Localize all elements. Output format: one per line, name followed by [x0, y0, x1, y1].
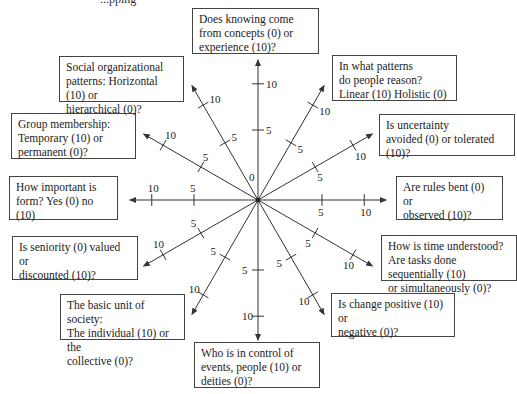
tick-10-label: 10: [242, 310, 254, 322]
tick-5-mark: [198, 228, 204, 238]
tick-5-label: 5: [266, 124, 272, 136]
question-box-reasoning: In what patternsdo people reason?Linear …: [332, 55, 457, 101]
tick-10-label: 10: [343, 259, 355, 271]
question-line: Social organizational: [66, 60, 177, 74]
tick-10-mark: [198, 102, 208, 108]
tick-5-label: 5: [203, 151, 209, 163]
tick-10-mark: [160, 140, 166, 150]
axis-unit: 510: [189, 200, 258, 314]
question-box-group: Group membership:Temporary (10) orperman…: [11, 113, 136, 159]
tick-10-label: 10: [148, 182, 160, 194]
tick-10-label: 10: [355, 150, 367, 162]
tick-5-mark: [286, 140, 296, 146]
question-line: In what patterns: [339, 59, 450, 73]
question-line: patterns: Horizontal (10) or: [66, 74, 177, 102]
question-line: observed (10)?: [403, 208, 496, 222]
tick-5-mark: [198, 162, 204, 172]
center-point: [256, 198, 260, 202]
tick-5-mark: [312, 228, 318, 238]
tick-5-label: 5: [211, 245, 217, 257]
question-line: experience (10)?: [199, 40, 312, 54]
question-box-uncertainty: Is uncertaintyavoided (0) or tolerated (…: [379, 114, 515, 156]
question-box-unit: The basic unit of society:The individual…: [60, 294, 185, 340]
tick-5-label: 5: [305, 237, 311, 249]
tick-10-label: 10: [165, 129, 177, 141]
question-line: Does knowing come: [199, 12, 312, 26]
axis-seniority: 510: [144, 200, 258, 266]
question-line: events, people (10) or: [201, 360, 313, 374]
question-line: avoided (0) or tolerated (10)?: [386, 132, 508, 160]
tick-5-label: 5: [190, 182, 196, 194]
tick-10-label: 10: [298, 295, 310, 307]
center-zero-label: 0: [249, 171, 255, 183]
question-line: deities (0)?: [201, 374, 313, 388]
tick-5-label: 5: [277, 257, 283, 269]
tick-10-label: 10: [266, 78, 278, 90]
question-box-social: Social organizationalpatterns: Horizonta…: [59, 56, 184, 102]
question-box-knowing: Does knowing comefrom concepts (0) orexp…: [192, 8, 319, 54]
question-line: Is change positive (10) or: [338, 297, 448, 325]
question-line: Are tasks done sequentially (10): [388, 253, 510, 281]
question-line: negative (0)?: [338, 325, 448, 339]
question-box-rules: Are rules bent (0) orobserved (10)?: [396, 176, 503, 220]
question-box-control: Who is in control ofevents, people (10) …: [194, 342, 320, 388]
question-line: How important is: [16, 180, 111, 194]
tick-10-label: 10: [319, 105, 331, 117]
question-line: Group membership:: [18, 117, 129, 131]
question-line: Temporary (10) or: [18, 131, 129, 145]
question-line: Is seniority (0) valued or: [19, 240, 131, 268]
tick-10-label: 10: [153, 238, 165, 250]
question-box-form: How important isform? Yes (0) no (10): [9, 176, 118, 220]
question-box-seniority: Is seniority (0) valued ordiscounted (10…: [12, 236, 138, 280]
question-box-change: Is change positive (10) ornegative (0)?: [331, 293, 455, 337]
tick-5-label: 5: [297, 143, 303, 155]
axis-form: 510: [130, 182, 258, 206]
question-line: form? Yes (0) no (10): [16, 194, 111, 222]
tick-10-mark: [160, 250, 166, 260]
tick-5-label: 5: [191, 217, 197, 229]
question-line: collective (0)?: [67, 354, 178, 368]
question-line: How is time understood?: [388, 239, 510, 253]
question-box-time: How is time understood?Are tasks done se…: [381, 235, 517, 281]
tick-5-label: 5: [231, 131, 237, 143]
axis-group: 510: [144, 129, 258, 200]
axis-uncertainty: 510: [258, 134, 372, 200]
tick-5-label: 5: [242, 264, 248, 276]
axis-time: 510: [258, 200, 372, 271]
tick-10-mark: [308, 102, 318, 108]
question-line: from concepts (0) or: [199, 26, 312, 40]
tick-10-label: 10: [189, 283, 201, 295]
tick-5-label: 5: [318, 206, 324, 218]
question-line: The basic unit of society:: [67, 298, 178, 326]
question-line: permanent (0)?: [18, 145, 129, 159]
tick-5-mark: [286, 254, 296, 260]
tick-5-mark: [220, 254, 230, 260]
tick-5-label: 5: [317, 171, 323, 183]
axis-change: 510: [258, 200, 324, 314]
question-line: Is uncertainty: [386, 118, 508, 132]
question-line: do people reason?: [339, 73, 450, 87]
question-line: Linear (10) Holistic (0): [339, 87, 450, 101]
question-line: Are rules bent (0) or: [403, 180, 496, 208]
tick-10-label: 10: [360, 206, 372, 218]
tick-5-mark: [220, 140, 230, 146]
axis-rules: 510: [258, 194, 386, 218]
question-line: The individual (10) or the: [67, 326, 178, 354]
axis-knowing: 510: [252, 60, 278, 200]
question-line: Who is in control of: [201, 346, 313, 360]
question-line: hierarchical (0)?: [66, 102, 177, 116]
tick-10-label: 10: [210, 93, 222, 105]
question-line: discounted (10)?: [19, 268, 131, 282]
